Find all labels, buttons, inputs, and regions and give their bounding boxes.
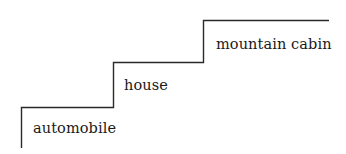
step-label-house: house	[124, 78, 168, 93]
step-label-automobile: automobile	[33, 121, 116, 136]
staircase-diagram: automobile house mountain cabin	[0, 0, 346, 154]
step-label-mountain-cabin: mountain cabin	[216, 37, 332, 52]
